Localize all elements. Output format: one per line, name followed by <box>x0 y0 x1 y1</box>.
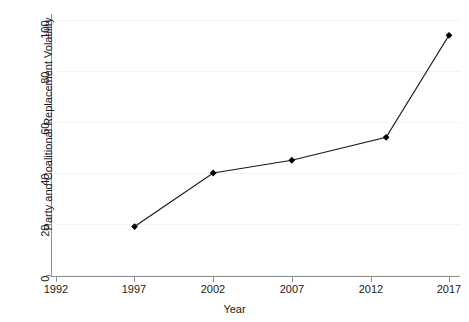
series-line <box>135 35 449 226</box>
series-markers <box>131 32 452 230</box>
data-point-marker <box>446 32 453 39</box>
data-point-marker <box>210 170 217 177</box>
chart-container: 100 80 60 40 20 0 1992 1997 2002 2007 20… <box>0 0 469 322</box>
data-point-marker <box>131 223 138 230</box>
series-layer <box>0 0 469 322</box>
data-point-marker <box>383 134 390 141</box>
data-point-marker <box>288 157 295 164</box>
